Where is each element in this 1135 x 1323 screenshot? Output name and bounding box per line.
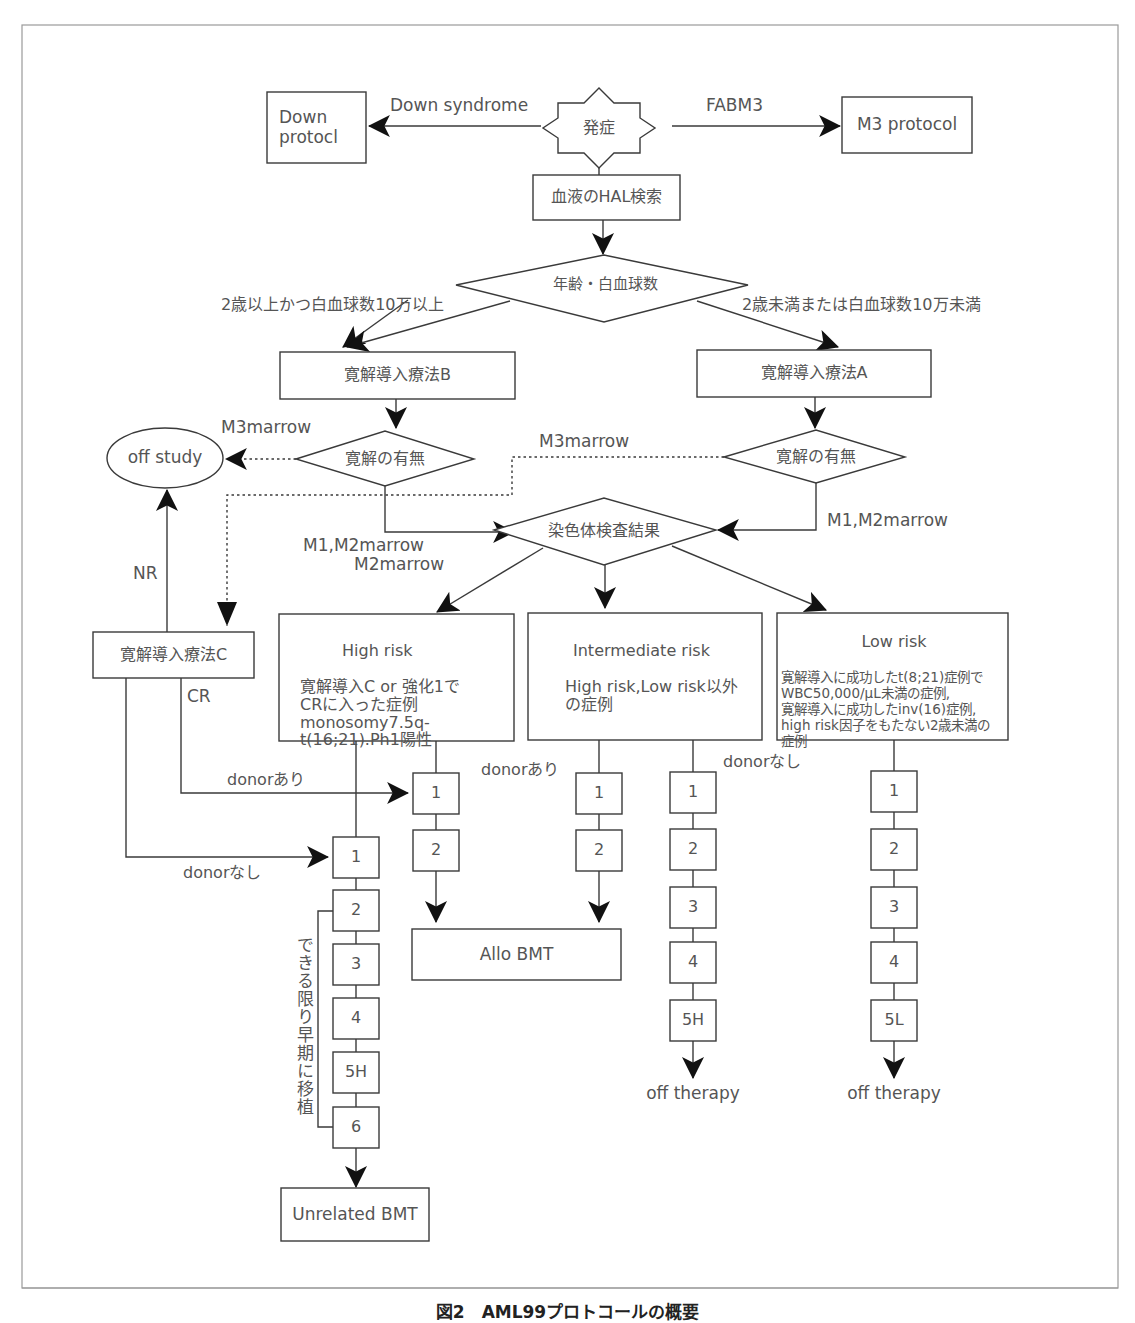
course-label: 1: [871, 771, 917, 812]
low-risk-criteria: 寛解導入に成功したt(8;21)症例で WBC50,000/μL未満の症例, 寛…: [781, 669, 1007, 750]
course-label: 1: [670, 772, 716, 813]
m3-protocol-node: M3 protocol: [842, 97, 972, 153]
course-label: 2: [333, 890, 379, 931]
high-risk-criteria: 寛解導入C or 強化1で CRに入った症例 monosomy7.5q- t(1…: [300, 678, 510, 750]
course-label: 5H: [670, 1000, 716, 1041]
edge-label-age-high: 2歳以上かつ白血球数10万以上: [221, 297, 444, 313]
course-label: 5H: [333, 1052, 379, 1093]
edge-label-down-syndrome: Down syndrome: [390, 97, 528, 114]
course-label: 4: [333, 998, 379, 1039]
edge-label-donor-no-left: donorなし: [183, 865, 261, 881]
intermediate-risk-group: Intermediate risk High risk,Low risk以外 の…: [565, 624, 760, 731]
course-label: 1: [576, 773, 622, 814]
course-label: 3: [670, 887, 716, 928]
edge-label-m1m2-right: M1,M2marrow: [827, 512, 948, 529]
edge-label-fabm3: FABM3: [706, 97, 763, 114]
onset-node: 発症: [558, 110, 640, 146]
hal-test-node: 血液のHAL検索: [533, 175, 680, 220]
age-wbc-decision: 年齢・白血球数: [520, 270, 690, 300]
course-label: 2: [871, 829, 917, 870]
course-label: 4: [670, 942, 716, 983]
edge-label-age-low: 2歳未満または白血球数10万未満: [742, 297, 981, 313]
course-label: 4: [871, 942, 917, 983]
course-label: 3: [871, 887, 917, 928]
edge-label-donor-yes-left: donorあり: [227, 772, 305, 788]
down-protocol-node: Down protocl: [267, 92, 366, 163]
figure-caption: 図2 AML99プロトコールの概要: [0, 1298, 1135, 1323]
course-label: 6: [333, 1107, 379, 1148]
course-label: 2: [576, 830, 622, 871]
edge-label-m2-left: M2marrow: [354, 556, 444, 573]
edge-label-early-transplant: できる限り早期に移植: [292, 936, 317, 1116]
edge-label-cr: CR: [187, 688, 211, 705]
low-risk-title: Low risk: [781, 633, 1007, 651]
edge-label-nr: NR: [133, 565, 158, 582]
edge-label-m3marrow-left: M3marrow: [221, 419, 311, 436]
induction-b-node: 寛解導入療法B: [280, 352, 515, 399]
remission-left-decision: 寛解の有無: [325, 444, 445, 474]
induction-c-node: 寛解導入療法C: [93, 632, 254, 678]
off-therapy-intermediate: off therapy: [633, 1085, 753, 1102]
off-therapy-low: off therapy: [834, 1085, 954, 1102]
course-label: 2: [413, 830, 459, 871]
off-study-node: off study: [107, 443, 223, 473]
allo-bmt-node: Allo BMT: [412, 929, 621, 980]
course-label: 5L: [871, 1000, 917, 1041]
intermediate-risk-criteria: High risk,Low risk以外 の症例: [565, 678, 760, 714]
course-label: 1: [413, 773, 459, 814]
high-risk-title: High risk: [300, 642, 510, 660]
course-label: 2: [670, 829, 716, 870]
intermediate-risk-title: Intermediate risk: [565, 642, 760, 660]
induction-a-node: 寛解導入療法A: [697, 350, 931, 397]
high-risk-group: High risk 寛解導入C or 強化1で CRに入った症例 monosom…: [300, 624, 510, 767]
remission-right-decision: 寛解の有無: [756, 442, 876, 472]
edge-label-m3marrow-right: M3marrow: [539, 433, 629, 450]
course-label: 3: [333, 944, 379, 985]
chromosome-result-decision: 染色体検査結果: [534, 516, 674, 546]
course-label: 1: [333, 837, 379, 878]
unrelated-bmt-node: Unrelated BMT: [281, 1188, 429, 1241]
edge-label-m1m2-left: M1,M2marrow: [303, 537, 424, 554]
low-risk-group: Low risk 寛解導入に成功したt(8;21)症例で WBC50,000/μ…: [781, 615, 1007, 768]
